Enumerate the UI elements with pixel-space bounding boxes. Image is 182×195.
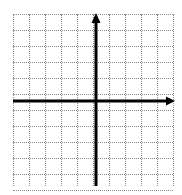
axes-layer [0,0,182,195]
x-axis-arrow-right-icon [166,97,175,106]
coordinate-plane-figure [0,0,182,195]
axes-svg [0,0,182,195]
y-axis-arrow-up-icon [92,13,101,23]
